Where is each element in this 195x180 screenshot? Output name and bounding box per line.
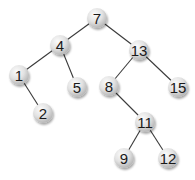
tree-edges: [19, 18, 178, 158]
tree-node-1: 1: [9, 65, 29, 85]
tree-node-5: 5: [67, 77, 87, 97]
node-label: 7: [93, 10, 101, 27]
binary-tree-diagram: 741315815211912: [0, 0, 195, 180]
node-label: 5: [73, 79, 81, 96]
tree-node-11: 11: [135, 112, 155, 132]
node-label: 15: [170, 79, 187, 96]
node-label: 2: [39, 105, 47, 122]
tree-node-13: 13: [129, 40, 149, 60]
tree-node-15: 15: [168, 77, 188, 97]
tree-node-4: 4: [50, 35, 70, 55]
tree-node-9: 9: [114, 148, 134, 168]
node-label: 4: [56, 37, 64, 54]
tree-node-2: 2: [33, 103, 53, 123]
node-label: 1: [15, 67, 23, 84]
node-label: 9: [120, 150, 128, 167]
node-label: 8: [105, 78, 113, 95]
node-label: 11: [137, 114, 153, 131]
node-label: 13: [131, 42, 148, 59]
node-label: 12: [160, 150, 177, 167]
tree-node-12: 12: [158, 148, 178, 168]
tree-node-7: 7: [87, 8, 107, 28]
tree-nodes: 741315815211912: [9, 8, 188, 168]
tree-node-8: 8: [99, 76, 119, 96]
